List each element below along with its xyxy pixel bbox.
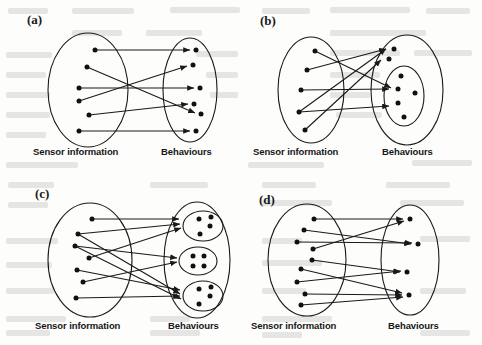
panel-d-left-set-boundary bbox=[268, 204, 346, 316]
panel-c-right-label: Behaviours bbox=[168, 320, 219, 331]
figure-root: (a) bbox=[0, 0, 482, 345]
panel-d-left-label: Sensor information bbox=[251, 320, 336, 331]
panel-d-edges bbox=[297, 219, 412, 305]
panel-d-right-label: Behaviours bbox=[388, 320, 439, 331]
panel-b-right-label: Behaviours bbox=[382, 146, 433, 157]
panel-a: (a) bbox=[0, 0, 241, 172]
panel-a-left-label: Sensor information bbox=[33, 146, 118, 157]
panel-c-left-label: Sensor information bbox=[35, 320, 120, 331]
panel-a-edges bbox=[79, 50, 195, 131]
panel-c-right-subgroup-3-boundary bbox=[183, 281, 223, 311]
panel-b: (b) bbox=[241, 0, 482, 172]
panel-b-edges bbox=[299, 49, 391, 130]
panel-c-right-subgroup-2-boundary bbox=[179, 247, 217, 275]
panel-a-right-set-boundary bbox=[163, 38, 217, 142]
panel-b-left-label: Sensor information bbox=[253, 146, 338, 157]
panel-c-right-subgroup-1-boundary bbox=[183, 211, 223, 241]
panel-c: (c) bbox=[0, 172, 241, 345]
panel-c-nodes bbox=[73, 215, 214, 307]
panel-d: (d) bbox=[241, 172, 482, 345]
panel-a-nodes bbox=[77, 48, 204, 134]
panel-a-right-label: Behaviours bbox=[161, 146, 212, 157]
